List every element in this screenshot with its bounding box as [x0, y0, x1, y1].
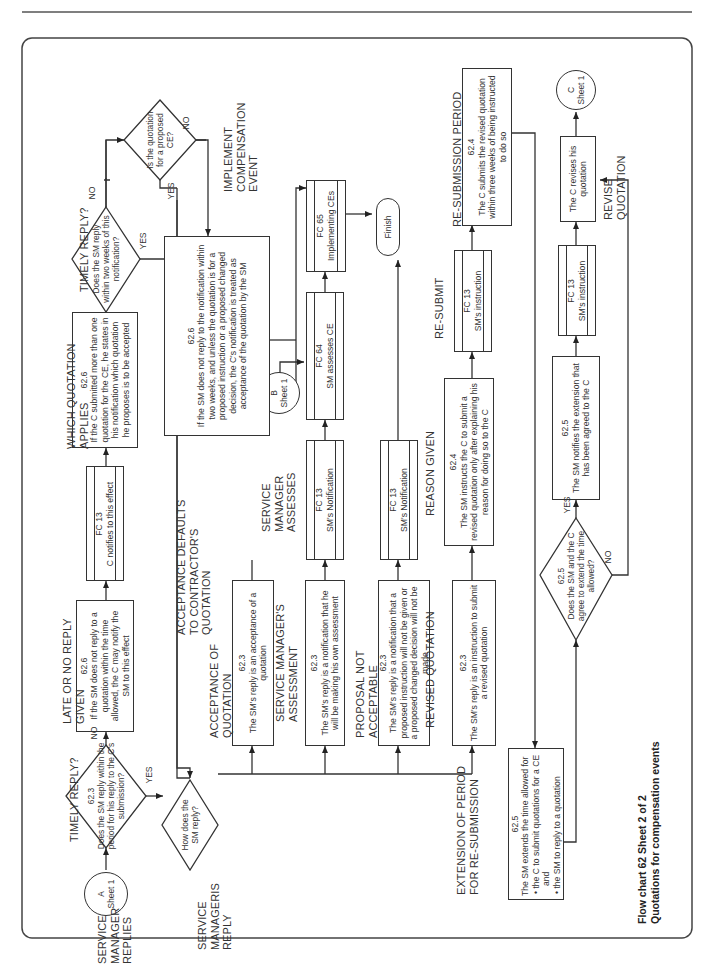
chart-caption: Flow chart 62 Sheet 2 of 2 Quotations fo… — [636, 704, 664, 924]
fc13-sm-notification-1-ref: FC 13 — [314, 488, 325, 511]
d1-yes-label: YES — [144, 766, 154, 783]
fc64-sm-assesses[interactable]: FC 64 SM assesses CE — [306, 292, 344, 420]
heading-reason-given: REASON GIVEN — [424, 406, 438, 516]
d1-question: Does the SM reply within the period for … — [96, 742, 127, 850]
d2-question: How does the SM reply? — [180, 795, 200, 855]
heading-which-quotation: WHICH QUOTATION APPLIES — [65, 319, 93, 449]
fc65-implementing[interactable]: FC 65 Implementing CEs — [306, 180, 346, 272]
d1-ref: 62.3 — [86, 788, 96, 804]
caption-line-1: Flow chart 62 Sheet 2 of 2 — [636, 704, 649, 924]
assessment-text: The SM's reply is a notification that he… — [320, 584, 341, 742]
d3-yes-label: YES — [138, 232, 148, 249]
box-acceptance: 62.3 The SM's reply is an acceptance of … — [232, 580, 274, 746]
d3-question: Does the SM reply within two weeks of th… — [91, 213, 122, 305]
fc13-instruction-2-ref: FC 13 — [566, 279, 577, 302]
decision-d3-text: Does the SM reply within two weeks of th… — [91, 213, 121, 305]
d4-question: Is the quotation for a proposed CE? — [145, 106, 176, 174]
finish-label: Finish — [378, 202, 398, 252]
box-c-revises: The C revises his quotation — [560, 136, 596, 222]
box-extension: 62.5 The SM extends the time allowed for… — [508, 748, 564, 900]
fc13-instruction-2[interactable]: FC 13 SM's instruction — [558, 245, 596, 336]
fc65-text: Implementing CEs — [326, 191, 337, 261]
fc13-c-notifies[interactable]: FC 13 C notifies to this effect — [86, 466, 124, 581]
not-acceptable-ref: 62.3 — [378, 655, 389, 672]
connector-c-letter: C — [566, 87, 576, 93]
fc13-c-notifies-text: C notifies to this effect — [105, 481, 116, 565]
d4-no-label: NO — [181, 117, 191, 130]
terminal-finish: Finish — [376, 198, 400, 256]
heading-sm-reply: SERVICE MANAGERIS REPLY — [196, 870, 236, 950]
d5-no-label: NO — [603, 551, 613, 564]
box-reason: 62.4 The SM instructs the C to submit a … — [444, 378, 494, 546]
fc13-instruction-1[interactable]: FC 13 SM's instruction — [454, 250, 492, 352]
fc64-text: SM assesses CE — [325, 323, 336, 388]
heading-re-submission-period: RE-SUBMISSION PERIOD — [451, 67, 465, 227]
fc13-instruction-2-text: SM's instruction — [577, 260, 588, 320]
heading-revised-quotation: REVISED QUOTATION — [424, 598, 438, 728]
box-acceptance-default: 62.6 If the SM does not reply to the not… — [164, 236, 270, 436]
fc64-ref: FC 64 — [314, 344, 325, 367]
which-quotation-text: If the C submitted more than one quotati… — [89, 316, 131, 444]
fc13-sm-notification-1[interactable]: FC 13 SM's Notification — [306, 440, 344, 560]
reason-ref: 62.4 — [448, 454, 459, 471]
decision-d5-text: 62.5 Does the SM and the C agree to exte… — [560, 526, 592, 626]
fc65-ref: FC 65 — [315, 214, 326, 237]
caption-line-2: Quotations for compensation events — [649, 704, 662, 924]
extension-ref: 62.5 — [510, 816, 521, 833]
box-revised: 62.3 The SM's reply is an instruction to… — [452, 580, 496, 746]
heading-re-submit: RE-SUBMIT — [433, 259, 447, 339]
fc13-sm-notification-2[interactable]: FC 13 SM's Notification — [380, 440, 418, 560]
connector-c[interactable]: C Sheet 1 — [556, 70, 596, 110]
acceptance-ref: 62.3 — [237, 655, 248, 672]
decision-d4-text: Is the quotation for a proposed CE? — [148, 106, 172, 174]
connector-b-sheet: Sheet 1 — [279, 379, 289, 408]
acceptance-default-ref: 62.6 — [186, 328, 197, 345]
notifies-extension-text: The SM notifies the extension that has b… — [571, 360, 592, 496]
notifies-extension-ref: 62.5 — [560, 420, 571, 437]
d3-no-label: NO — [87, 187, 97, 200]
extension-bullets: the C to submit quotations for a CE and … — [531, 752, 563, 896]
revised-ref: 62.3 — [458, 655, 469, 672]
fc13-c-notifies-ref: FC 13 — [94, 512, 105, 535]
d1-no-label: NO — [89, 727, 99, 740]
fc13-sm-notification-2-ref: FC 13 — [388, 488, 399, 511]
revised-text: The SM's reply is an instruction to subm… — [469, 584, 490, 742]
fc13-sm-notification-2-text: SM's Notification — [399, 468, 410, 532]
late-reply-text: If the SM does not reply to a quotation … — [89, 604, 131, 728]
extension-text: The SM extends the time allowed for — [520, 757, 531, 896]
d4-yes-label: YES — [166, 182, 176, 199]
c-revises-text: The C revises his quotation — [568, 139, 589, 219]
extension-bullet: the SM to reply to a quotation — [552, 752, 563, 886]
connector-b-letter: B — [269, 390, 279, 396]
box-resubmission: 62.4 The C submits the revised quotation… — [462, 68, 512, 226]
fc13-instruction-1-ref: FC 13 — [462, 289, 473, 312]
heading-late-no-reply: LATE OR NO REPLY GIVEN — [61, 614, 89, 724]
resubmission-text: The C submits the revised quotation with… — [477, 72, 509, 222]
d5-ref: 62.5 — [556, 568, 566, 584]
heading-sm-replies: SERVICE MANAGER REPLIES — [96, 884, 134, 964]
d5-yes-label: YES — [562, 496, 572, 513]
decision-d1-text: 62.3 Does the SM reply within the period… — [88, 742, 124, 850]
fc13-sm-notification-1-text: SM's Notification — [325, 468, 336, 532]
assessment-ref: 62.3 — [309, 655, 320, 672]
decision-d2-text: How does the SM reply? — [179, 795, 201, 855]
heading-sm-assesses: SERVICE MANAGER ASSESSES — [260, 452, 300, 532]
acceptance-text: The SM's reply is an acceptance of a quo… — [248, 584, 269, 742]
box-not-acceptable: 62.3 The SM's reply is a notification th… — [378, 580, 430, 746]
heading-extension-period: EXTENSION OF PERIOD FOR RE-SUBMISSION — [455, 745, 483, 895]
heading-proposal-not-acceptable: PROPOSAL NOT ACCEPTABLE — [354, 588, 368, 738]
heading-acceptance-of-quotation: ACCEPTANCE OF QUOTATION — [208, 588, 222, 738]
heading-revise-quotation: REVISE QUOTATION — [602, 140, 630, 220]
heading-timely-reply-1: TIMELY REPLY? — [68, 752, 82, 842]
fc13-instruction-1-text: SM's instruction — [473, 271, 484, 331]
connector-c-sheet: Sheet 1 — [576, 76, 586, 105]
acceptance-default-text: If the SM does not reply to the notifica… — [196, 240, 249, 432]
box-assessment: 62.3 The SM's reply is a notification th… — [305, 580, 345, 746]
resubmission-ref: 62.4 — [466, 139, 477, 156]
box-notifies-extension: 62.5 The SM notifies the extension that … — [552, 356, 600, 500]
reason-text: The SM instructs the C to submit a revis… — [459, 382, 491, 542]
heading-sm-assessment: SERVICE MANAGER'S ASSESSMENT — [274, 602, 302, 722]
heading-timely-reply-2: TIMELY REPLY? — [78, 202, 92, 292]
extension-bullet: the C to submit quotations for a CE and — [531, 752, 552, 886]
d5-question: Does the SM and the C agree to extend th… — [566, 526, 597, 626]
